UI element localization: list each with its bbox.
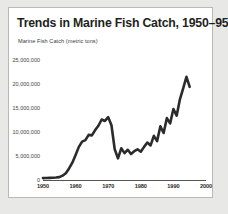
x-axis-tick-label: 1950 [31, 183, 55, 189]
x-axis-line [43, 180, 206, 181]
chart-panel: Trends in Marine Fish Catch, 1950–95 Mar… [8, 7, 213, 198]
x-axis-tick-label: 1960 [64, 183, 88, 189]
y-axis-tick-label: 20,000,000 [9, 81, 40, 87]
y-axis-tick-label: 5,000,000 [9, 153, 40, 159]
data-series-line [43, 77, 190, 178]
x-axis-tick-label: 1970 [96, 183, 120, 189]
y-axis-tick-label: 0 [9, 177, 40, 183]
plot-area: 05,000,00010,000,00015,000,00020,000,000… [9, 8, 214, 199]
x-axis-tick-label: 1980 [129, 183, 153, 189]
y-axis-tick-label: 15,000,000 [9, 105, 40, 111]
x-axis-tick-label: 2000 [194, 183, 218, 189]
y-axis-tick-label: 10,000,000 [9, 129, 40, 135]
chart-figure: Trends in Marine Fish Catch, 1950–95 Mar… [0, 0, 228, 214]
line-chart-svg [9, 8, 214, 199]
y-axis-tick-label: 25,000,000 [9, 57, 40, 63]
x-axis-tick-label: 1990 [161, 183, 185, 189]
